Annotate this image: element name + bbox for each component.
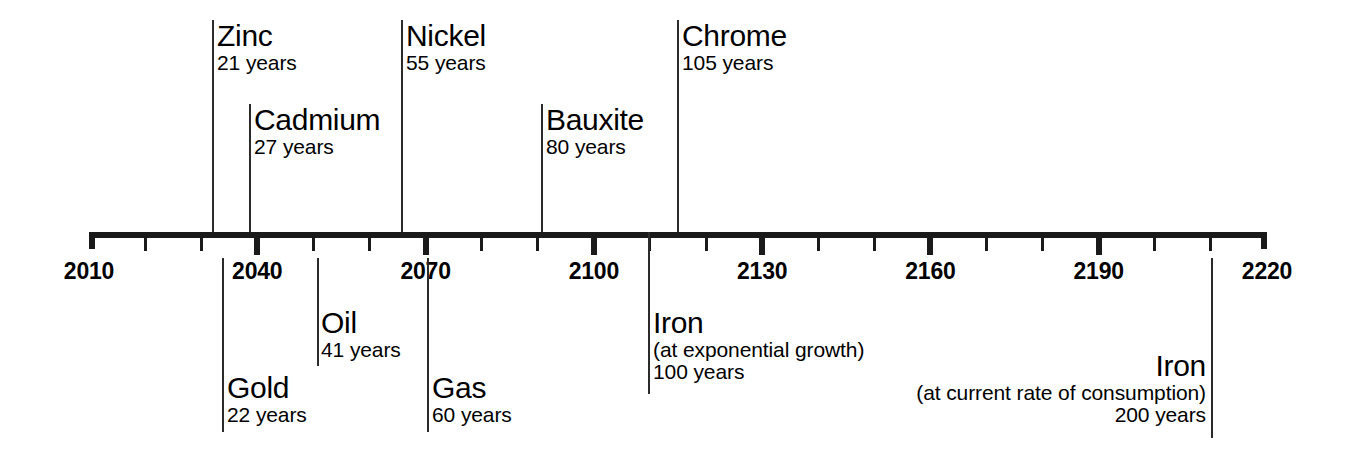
marker-note-iron-current: (at current rate of consumption) xyxy=(916,382,1206,404)
axis-minor-tick xyxy=(312,238,315,251)
marker-name-gold: Gold xyxy=(227,372,307,404)
axis-major-tick xyxy=(591,238,597,255)
axis-tick-label-2130: 2130 xyxy=(737,260,787,283)
marker-name-nickel: Nickel xyxy=(406,20,486,52)
marker-label-nickel: Nickel55 years xyxy=(406,20,486,74)
marker-years-bauxite: 80 years xyxy=(546,136,644,158)
axis-minor-tick xyxy=(144,238,147,251)
marker-years-iron-current: 200 years xyxy=(916,404,1206,426)
marker-years-oil: 41 years xyxy=(321,339,401,361)
axis-tick-label-2160: 2160 xyxy=(905,260,955,283)
marker-years-chrome: 105 years xyxy=(682,52,787,74)
axis-minor-tick xyxy=(985,238,988,251)
marker-years-iron-exponential: 100 years xyxy=(653,361,864,383)
marker-label-iron-current: Iron(at current rate of consumption)200 … xyxy=(916,350,1206,426)
marker-label-oil: Oil41 years xyxy=(321,307,401,361)
axis-minor-tick xyxy=(873,238,876,251)
axis-minor-tick xyxy=(368,238,371,251)
axis-tick-label-2190: 2190 xyxy=(1074,260,1124,283)
axis-minor-tick xyxy=(536,238,539,251)
marker-label-gold: Gold22 years xyxy=(227,372,307,426)
axis-start-cap xyxy=(89,232,95,249)
axis-end-cap xyxy=(1261,232,1267,249)
axis-tick-label-2220: 2220 xyxy=(1242,260,1292,283)
axis-minor-tick xyxy=(817,238,820,251)
leader-line-cadmium xyxy=(249,104,251,232)
leader-line-iron-exponential xyxy=(648,232,650,394)
axis-minor-tick xyxy=(1153,238,1156,251)
axis-tick-label-2070: 2070 xyxy=(400,260,450,283)
axis-minor-tick xyxy=(480,238,483,251)
marker-name-oil: Oil xyxy=(321,307,401,339)
marker-name-iron-exponential: Iron xyxy=(653,307,864,339)
axis-major-tick xyxy=(927,238,933,255)
leader-line-nickel xyxy=(401,20,403,232)
axis-minor-tick xyxy=(1209,238,1212,251)
marker-label-iron-exponential: Iron(at exponential growth)100 years xyxy=(653,307,864,383)
marker-name-bauxite: Bauxite xyxy=(546,104,644,136)
marker-note-iron-exponential: (at exponential growth) xyxy=(653,339,864,361)
leader-line-oil xyxy=(317,258,319,366)
marker-years-gold: 22 years xyxy=(227,404,307,426)
axis-minor-tick xyxy=(1041,238,1044,251)
marker-name-iron-current: Iron xyxy=(916,350,1206,382)
marker-label-gas: Gas60 years xyxy=(432,372,512,426)
marker-name-zinc: Zinc xyxy=(217,20,297,52)
axis-major-tick xyxy=(423,238,429,255)
axis-tick-label-2040: 2040 xyxy=(232,260,282,283)
axis-tick-label-2010: 2010 xyxy=(64,260,114,283)
axis-major-tick xyxy=(1096,238,1102,255)
leader-line-chrome xyxy=(677,20,679,232)
marker-years-nickel: 55 years xyxy=(406,52,486,74)
axis-minor-tick xyxy=(705,238,708,251)
marker-name-gas: Gas xyxy=(432,372,512,404)
marker-years-cadmium: 27 years xyxy=(254,136,380,158)
resource-depletion-timeline-chart: 20102040207021002130216021902220Zinc21 y… xyxy=(0,0,1359,459)
axis-major-tick xyxy=(759,238,765,255)
marker-name-cadmium: Cadmium xyxy=(254,104,380,136)
marker-name-chrome: Chrome xyxy=(682,20,787,52)
leader-line-zinc xyxy=(212,20,214,232)
marker-label-zinc: Zinc21 years xyxy=(217,20,297,74)
marker-years-zinc: 21 years xyxy=(217,52,297,74)
leader-line-gold xyxy=(222,258,224,432)
leader-line-iron-current xyxy=(1211,258,1213,438)
axis-minor-tick xyxy=(200,238,203,251)
axis-tick-label-2100: 2100 xyxy=(569,260,619,283)
marker-label-cadmium: Cadmium27 years xyxy=(254,104,380,158)
marker-years-gas: 60 years xyxy=(432,404,512,426)
leader-line-bauxite xyxy=(541,104,543,232)
timeline-axis xyxy=(89,232,1267,238)
marker-label-chrome: Chrome105 years xyxy=(682,20,787,74)
axis-major-tick xyxy=(254,238,260,255)
leader-line-gas xyxy=(427,258,429,432)
marker-label-bauxite: Bauxite80 years xyxy=(546,104,644,158)
